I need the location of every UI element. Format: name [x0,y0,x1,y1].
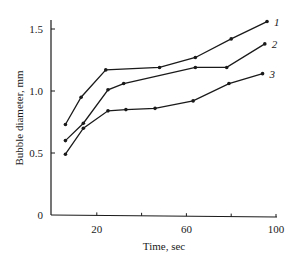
bubble-diameter-chart: 00.51.01.5 2060100 123 Time, sec Bubble … [0,0,297,264]
x-tick-label: 60 [181,223,193,235]
data-point [191,99,195,103]
data-point [153,107,157,111]
data-point [122,82,126,86]
y-tick-label: 0 [38,209,44,221]
data-point [229,37,233,41]
data-point [106,109,110,113]
data-point [261,72,265,76]
data-point [194,66,198,70]
x-tick-label: 20 [91,223,103,235]
y-tick-label: 1.0 [29,85,43,97]
series-line-2 [65,44,264,141]
series-lines: 123 [64,16,280,156]
data-point [227,82,231,86]
series-line-1 [65,22,267,125]
data-point [265,20,269,24]
x-axis [51,215,277,217]
data-point [82,126,86,130]
data-point [64,123,68,127]
data-point [263,42,267,46]
data-point [64,139,68,143]
y-tick-label: 0.5 [29,147,43,159]
data-point [225,66,229,70]
data-point [124,108,128,112]
data-point [79,95,83,99]
axes [51,20,277,217]
data-point [158,66,162,70]
data-point [82,121,86,125]
series-label-3: 3 [269,68,276,80]
x-tick-label: 100 [268,223,285,235]
series-label-2: 2 [272,38,278,50]
data-point [106,88,110,92]
series-label-1: 1 [274,16,280,28]
y-tick-label: 1.5 [29,23,43,35]
y-axis-label: Bubble diameter, mm [13,70,25,166]
data-point [104,68,108,72]
series-line-3 [65,74,262,155]
data-point [194,56,198,60]
x-axis-label: Time, sec [143,240,185,252]
data-point [64,152,68,156]
